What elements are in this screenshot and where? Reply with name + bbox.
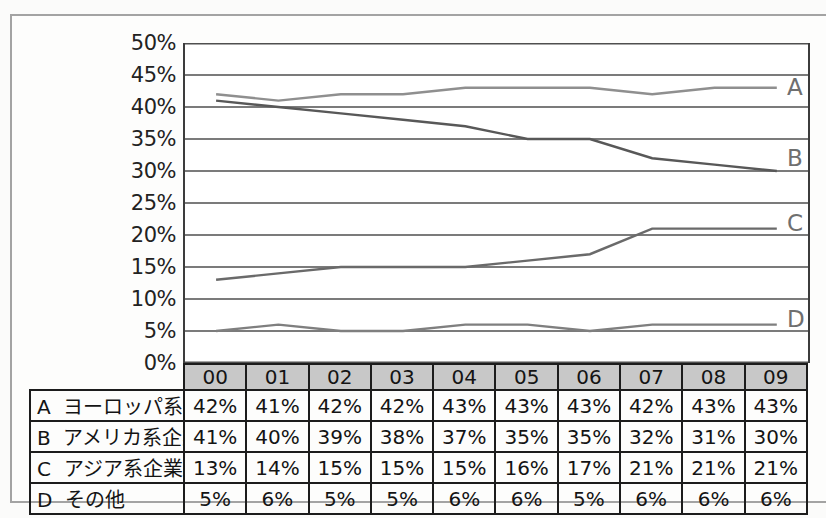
y-axis-tick: 15%: [60, 255, 176, 279]
value-cell: 17%: [558, 452, 620, 483]
y-axis-tick: 30%: [60, 159, 176, 183]
value-cell: 15%: [433, 452, 495, 483]
series-name-cell: B アメリカ系企業: [30, 421, 184, 452]
value-cell: 6%: [745, 483, 807, 514]
table-header-row: 00010203040506070809: [30, 364, 807, 390]
series-name-cell: D その他: [30, 483, 184, 514]
series-D-line: [216, 325, 777, 331]
chart-figure: 50%45%40%35%30%25%20%15%10%5%0% ABCD 000…: [0, 0, 826, 518]
value-cell: 13%: [184, 452, 246, 483]
y-axis-tick: 35%: [60, 127, 176, 151]
table-row-A: A ヨーロッパ系企業42%41%42%42%43%43%43%42%43%43%: [30, 390, 807, 421]
table-corner-cell: [30, 364, 184, 390]
series-name-cell: C アジア系企業: [30, 452, 184, 483]
value-cell: 5%: [184, 483, 246, 514]
value-cell: 42%: [309, 390, 371, 421]
value-cell: 43%: [745, 390, 807, 421]
series-A-line: [216, 88, 777, 101]
value-cell: 6%: [495, 483, 557, 514]
year-header-cell: 05: [495, 364, 557, 390]
series-label-C: C: [787, 210, 809, 236]
y-axis-tick: 10%: [60, 287, 176, 311]
data-table: 00010203040506070809A ヨーロッパ系企業42%41%42%4…: [29, 363, 808, 515]
series-name-cell: A ヨーロッパ系企業: [30, 390, 184, 421]
value-cell: 15%: [371, 452, 433, 483]
year-header-cell: 02: [309, 364, 371, 390]
value-cell: 5%: [558, 483, 620, 514]
year-header-cell: 07: [620, 364, 682, 390]
value-cell: 35%: [558, 421, 620, 452]
value-cell: 15%: [309, 452, 371, 483]
value-cell: 42%: [620, 390, 682, 421]
value-cell: 43%: [682, 390, 744, 421]
value-cell: 42%: [184, 390, 246, 421]
value-cell: 21%: [620, 452, 682, 483]
chart-canvas: [185, 43, 808, 363]
value-cell: 6%: [246, 483, 308, 514]
year-header-cell: 06: [558, 364, 620, 390]
y-axis-tick: 50%: [60, 31, 176, 55]
value-cell: 21%: [682, 452, 744, 483]
plot-area: ABCD: [183, 43, 810, 363]
value-cell: 37%: [433, 421, 495, 452]
year-header-cell: 01: [246, 364, 308, 390]
value-cell: 21%: [745, 452, 807, 483]
value-cell: 43%: [495, 390, 557, 421]
y-axis-tick: 5%: [60, 319, 176, 343]
value-cell: 30%: [745, 421, 807, 452]
value-cell: 14%: [246, 452, 308, 483]
series-label-B: B: [787, 145, 809, 171]
y-axis-tick: 45%: [60, 63, 176, 87]
value-cell: 43%: [558, 390, 620, 421]
table-row-B: B アメリカ系企業41%40%39%38%37%35%35%32%31%30%: [30, 421, 807, 452]
value-cell: 16%: [495, 452, 557, 483]
value-cell: 32%: [620, 421, 682, 452]
value-cell: 6%: [433, 483, 495, 514]
series-label-D: D: [787, 306, 809, 332]
year-header-cell: 04: [433, 364, 495, 390]
year-header-cell: 09: [745, 364, 807, 390]
value-cell: 5%: [309, 483, 371, 514]
y-axis-tick: 25%: [60, 191, 176, 215]
table-row-D: D その他5%6%5%5%6%6%5%6%6%6%: [30, 483, 807, 514]
value-cell: 5%: [371, 483, 433, 514]
value-cell: 41%: [184, 421, 246, 452]
series-label-A: A: [787, 74, 809, 100]
value-cell: 35%: [495, 421, 557, 452]
y-axis-tick: 40%: [60, 95, 176, 119]
value-cell: 31%: [682, 421, 744, 452]
year-header-cell: 03: [371, 364, 433, 390]
y-axis-tick: 20%: [60, 223, 176, 247]
series-C-line: [216, 229, 777, 280]
year-header-cell: 00: [184, 364, 246, 390]
series-B-line: [216, 101, 777, 171]
value-cell: 39%: [309, 421, 371, 452]
value-cell: 42%: [371, 390, 433, 421]
value-cell: 41%: [246, 390, 308, 421]
year-header-cell: 08: [682, 364, 744, 390]
value-cell: 6%: [620, 483, 682, 514]
table-row-C: C アジア系企業13%14%15%15%15%16%17%21%21%21%: [30, 452, 807, 483]
value-cell: 6%: [682, 483, 744, 514]
value-cell: 38%: [371, 421, 433, 452]
value-cell: 40%: [246, 421, 308, 452]
value-cell: 43%: [433, 390, 495, 421]
